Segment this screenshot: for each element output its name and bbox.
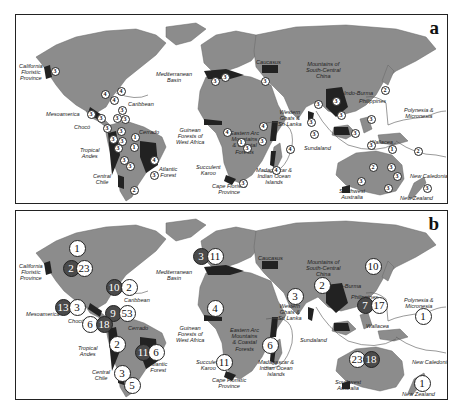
label-mesoamerica: Mesoamerica — [26, 311, 60, 317]
label-guinean: Guinean Forests of West Africa — [176, 127, 204, 146]
label-atlantic-forest: Atlantic Forest — [149, 361, 167, 373]
count-marker: 3 — [357, 177, 366, 186]
count-marker: 23 — [76, 260, 93, 277]
count-marker: 4 — [286, 145, 295, 154]
count-marker: 18 — [363, 351, 380, 368]
count-marker: 3 — [69, 299, 86, 316]
count-marker: 1 — [130, 143, 139, 152]
label-succulent-karoo: Succulent Karoo — [196, 164, 221, 176]
label-sw-australia: Southwest Australia — [339, 188, 365, 200]
label-new-zealand: New Zealand — [402, 391, 435, 397]
label-indo-burma: Indo-Burma — [332, 283, 361, 289]
count-marker: 2 — [121, 279, 138, 296]
count-marker: 2 — [109, 336, 126, 353]
count-marker: 4 — [117, 87, 126, 96]
count-marker: 3 — [239, 179, 248, 188]
count-marker: 3 — [287, 288, 304, 305]
count-marker: 5 — [124, 377, 141, 394]
count-marker: 3 — [150, 171, 159, 180]
count-marker: 4 — [207, 300, 224, 317]
count-marker: 6 — [262, 337, 279, 354]
world-map-a — [16, 15, 446, 202]
count-marker: 18 — [96, 316, 113, 333]
count-marker: 4 — [101, 90, 110, 99]
label-central-chile: Central Chile — [93, 173, 111, 185]
count-marker: 3 — [310, 130, 319, 139]
count-marker: 4 — [272, 166, 281, 175]
count-marker: 3 — [393, 172, 402, 181]
count-marker: 1 — [415, 308, 432, 325]
label-sundaland: Sundaland — [304, 145, 331, 151]
label-guinean: Guinean Forests of West Africa — [176, 325, 204, 344]
count-marker: 17 — [371, 297, 388, 314]
label-tropical-andes: Tropical Andes — [78, 345, 97, 357]
count-marker: 4 — [150, 156, 159, 165]
label-california: California Floristic Province — [19, 63, 43, 82]
count-marker: 3 — [332, 97, 341, 106]
panel-b: b California Floristic Province Mediterr… — [15, 210, 448, 400]
count-marker: 1 — [388, 145, 397, 154]
label-eastern-arc: Eastern Arc Mountains & Coastal Forests — [230, 327, 259, 352]
count-marker: 11 — [207, 248, 224, 265]
label-western-ghats: Western Ghats & Sri Lanka — [278, 109, 302, 128]
count-marker: 2 — [414, 147, 423, 156]
count-marker: 3 — [367, 141, 376, 150]
label-sw-australia: Southwest Australia — [335, 379, 361, 391]
count-marker: 1 — [69, 240, 86, 257]
panel-a: a California Floristic Province Mediterr… — [15, 14, 448, 204]
count-marker: 2 — [130, 186, 139, 195]
count-marker: 3 — [367, 115, 376, 124]
count-marker: 3 — [121, 115, 130, 124]
count-marker: 3 — [258, 137, 267, 146]
count-marker: 3 — [103, 124, 112, 133]
label-philippines: Philippines — [359, 98, 386, 104]
count-marker: 4 — [110, 96, 119, 105]
count-marker: 10 — [365, 258, 382, 275]
count-marker: 1 — [414, 375, 431, 392]
count-marker: 4 — [259, 122, 268, 131]
label-wallacea: Wallacea — [366, 323, 389, 329]
count-marker: 3 — [337, 111, 346, 120]
count-marker: 3 — [118, 106, 127, 115]
count-marker: 3 — [109, 135, 118, 144]
label-western-ghats: Western Ghats & Sri Lanka — [278, 303, 302, 322]
count-marker: 11 — [216, 354, 233, 371]
label-mesoamerica: Mesoamerica — [46, 111, 80, 117]
count-marker: 3 — [261, 77, 270, 86]
count-marker: 3 — [314, 100, 323, 109]
label-polynesia: Polynesia & Micronesia — [404, 107, 434, 119]
label-caribbean: Caribbean — [124, 297, 150, 303]
count-marker: 3 — [243, 144, 252, 153]
count-marker: 6 — [148, 344, 165, 361]
label-sc-china: Mountains of South-Central China — [306, 259, 341, 278]
label-new-zealand: New Zealand — [400, 195, 433, 201]
count-marker: 3 — [384, 184, 393, 193]
count-marker: 2 — [381, 86, 390, 95]
label-cerrado: Cerrado — [128, 325, 148, 331]
label-california: California Floristic Province — [19, 263, 43, 282]
label-sundaland: Sundaland — [300, 337, 327, 343]
label-atlantic-forest: Atlantic Forest — [159, 166, 177, 178]
label-sc-china: Mountains of South-Central China — [306, 61, 341, 80]
count-marker: 4 — [223, 128, 232, 137]
label-cerrado: Cerrado — [139, 129, 159, 135]
label-mediterranean: Mediterranean Basin — [156, 71, 192, 83]
count-marker: 3 — [387, 163, 396, 172]
label-tropical-andes: Tropical Andes — [80, 147, 99, 159]
count-marker: 2 — [314, 277, 331, 294]
label-caribbean: Caribbean — [128, 101, 154, 107]
label-mediterranean: Mediterranean Basin — [156, 269, 192, 281]
count-marker: 2 — [369, 163, 378, 172]
count-marker: 3 — [117, 127, 126, 136]
count-marker: 3 — [423, 184, 432, 193]
count-marker: 3 — [211, 77, 220, 86]
panel-letter-b: b — [428, 213, 439, 235]
label-polynesia: Polynesia & Micronesia — [404, 297, 434, 309]
label-central-chile: Central Chile — [92, 369, 110, 381]
count-marker: 3 — [114, 144, 123, 153]
count-marker: 1 — [131, 133, 140, 142]
count-marker: 3 — [221, 73, 230, 82]
label-indo-burma: Indo-Burma — [344, 90, 373, 96]
label-caucasus: Caucasus — [256, 59, 281, 65]
label-choco: Chocó — [74, 124, 90, 130]
